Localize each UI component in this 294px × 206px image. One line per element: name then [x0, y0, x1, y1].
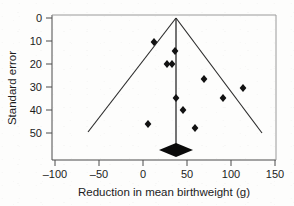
- y-tick-label: 20: [30, 58, 42, 70]
- y-tick-label: 0: [36, 12, 42, 24]
- funnel-right-line: [176, 18, 262, 133]
- funnel-left-line: [88, 18, 176, 132]
- x-axis-ticks: [55, 160, 275, 166]
- summary-diamond: [159, 143, 193, 157]
- datapoint: [192, 124, 199, 132]
- datapoint: [151, 38, 158, 46]
- y-tick-label: 50: [30, 127, 42, 139]
- datapoint: [180, 106, 187, 114]
- datapoint: [240, 84, 247, 92]
- y-tick-label: 10: [30, 35, 42, 47]
- datapoint: [145, 120, 152, 128]
- funnel-envelope: [88, 18, 262, 133]
- x-tick-label: –100: [43, 168, 67, 180]
- x-tick-label: 150: [266, 168, 284, 180]
- x-tick-label: –50: [90, 168, 108, 180]
- x-tick-label: 50: [181, 168, 193, 180]
- x-axis-title: Reduction in mean birthweight (g): [78, 186, 250, 198]
- funnel-plot-figure: –100 –50 0 50 100 150 0 10 20 30 40 50 R…: [0, 0, 294, 206]
- datapoint: [201, 75, 208, 83]
- y-axis-title: Standard error: [6, 51, 18, 125]
- x-tick-labels: –100 –50 0 50 100 150: [43, 168, 284, 180]
- y-tick-labels: 0 10 20 30 40 50: [30, 12, 42, 139]
- x-tick-label: 100: [222, 168, 240, 180]
- funnel-plot-svg: –100 –50 0 50 100 150 0 10 20 30 40 50 R…: [0, 0, 294, 206]
- datapoint: [173, 94, 180, 102]
- datapoint: [169, 60, 176, 68]
- y-tick-label: 40: [30, 104, 42, 116]
- datapoint: [220, 94, 227, 102]
- datapoint: [172, 47, 179, 55]
- y-tick-label: 30: [30, 81, 42, 93]
- x-tick-label: 0: [140, 168, 146, 180]
- study-datapoints: [145, 38, 247, 132]
- y-axis-ticks: [46, 18, 52, 133]
